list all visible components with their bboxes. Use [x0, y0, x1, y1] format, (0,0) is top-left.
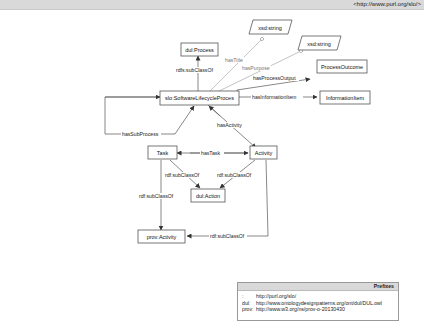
svg-text:slo:SoftwareLifecycleProces: slo:SoftwareLifecycleProces	[165, 95, 234, 101]
label-task-subclass-prov: rdf:subClassOf	[139, 193, 174, 199]
label-has-purpose: hasPurpose	[242, 65, 270, 71]
prefixes-panel: Prefixes : http://purl.org/slo/ dul: htt…	[237, 282, 399, 321]
label-has-title: hasTitle	[225, 57, 243, 63]
node-activity[interactable]: Activity	[250, 146, 277, 159]
label-activity-subclass-action: rdf:subClassOf	[217, 172, 252, 178]
svg-text:Activity: Activity	[255, 150, 273, 156]
prefixes-title: Prefixes	[238, 283, 398, 291]
node-dul-action[interactable]: dul:Action	[191, 189, 225, 202]
prefix-uri: http://www.w3.org/ns/prov-o-20130430	[256, 306, 345, 313]
label-has-sub-process: hasSubProcess	[122, 131, 159, 137]
node-xsd-string-1[interactable]: xsd:string	[249, 20, 292, 34]
svg-text:xsd:string: xsd:string	[307, 41, 331, 47]
label-task-subclass-action: rdf:subClassOf	[165, 172, 200, 178]
svg-text:dul:Process: dul:Process	[185, 47, 214, 53]
node-process-outcome[interactable]: ProcessOutcome	[317, 60, 367, 73]
label-activity-subclass-prov: rdf:subClassOf	[210, 233, 245, 239]
svg-text:xsd:string: xsd:string	[258, 25, 282, 31]
node-software-lifecycle-process[interactable]: slo:SoftwareLifecycleProces	[160, 91, 239, 105]
prefix-row: prov: http://www.w3.org/ns/prov-o-201304…	[238, 306, 398, 313]
node-dul-process[interactable]: dul:Process	[181, 43, 218, 56]
svg-text:dul:Action: dul:Action	[196, 193, 220, 199]
node-xsd-string-2[interactable]: xsd:string	[298, 36, 341, 50]
svg-text:prov:Activity: prov:Activity	[147, 234, 177, 240]
label-has-information-item: hasInformationItem	[252, 94, 296, 100]
label-has-task: hasTask	[201, 150, 220, 156]
svg-text:InformationItem: InformationItem	[326, 95, 365, 101]
node-information-item[interactable]: InformationItem	[320, 91, 370, 104]
edge-has-process-output	[237, 79, 310, 94]
node-prov-activity[interactable]: prov:Activity	[138, 230, 185, 243]
label-subclass-process: rdfs:subClassOf	[176, 67, 213, 73]
prefix-key: prov:	[242, 306, 256, 313]
label-has-activity: hasActivity	[217, 122, 242, 128]
node-task[interactable]: Task	[148, 146, 177, 159]
svg-text:Task: Task	[157, 150, 169, 156]
label-has-process-output: hasProcessOutput	[253, 75, 296, 81]
svg-text:ProcessOutcome: ProcessOutcome	[321, 64, 363, 70]
